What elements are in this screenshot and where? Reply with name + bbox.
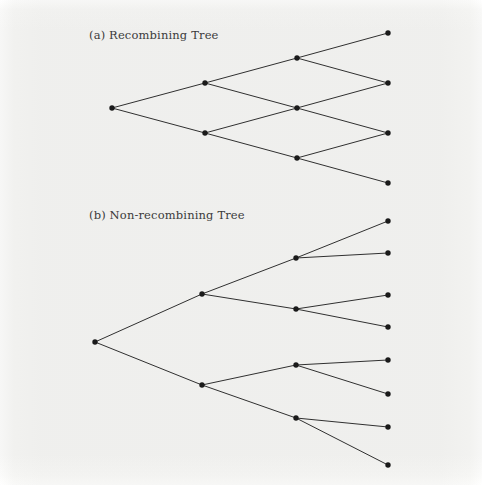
tree-edge	[296, 418, 388, 427]
tree-node	[294, 155, 299, 160]
tree-edge	[296, 221, 388, 258]
tree-node	[199, 382, 204, 387]
tree-edge	[202, 385, 296, 418]
tree-node	[385, 80, 390, 85]
tree-node	[385, 250, 390, 255]
tree-edge	[112, 83, 205, 108]
tree-edge	[202, 294, 296, 309]
tree-node	[92, 339, 97, 344]
tree-node	[293, 255, 298, 260]
tree-edge	[205, 133, 297, 158]
tree-edge	[205, 58, 297, 83]
panel-label-non-recombining: (b) Non-recombining Tree	[89, 208, 245, 222]
tree-node	[294, 105, 299, 110]
tree-edge	[95, 294, 202, 342]
tree-edge	[205, 83, 297, 108]
tree-edge	[296, 360, 388, 365]
tree-edge	[296, 418, 388, 465]
tree-node	[385, 357, 390, 362]
tree-edges-non-recombining	[95, 221, 388, 465]
tree-edge	[296, 253, 388, 258]
panel-label-recombining: (a) Recombining Tree	[89, 28, 219, 42]
tree-edge	[297, 133, 388, 158]
tree-node	[385, 218, 390, 223]
tree-node	[385, 391, 390, 396]
tree-node	[385, 292, 390, 297]
tree-edge	[296, 365, 388, 394]
tree-node	[202, 130, 207, 135]
tree-node	[385, 324, 390, 329]
tree-node	[385, 130, 390, 135]
tree-edge	[205, 108, 297, 133]
tree-node	[293, 362, 298, 367]
tree-edge	[297, 33, 388, 58]
tree-nodes-recombining	[109, 30, 390, 185]
tree-node	[385, 424, 390, 429]
tree-node	[293, 306, 298, 311]
tree-node	[199, 291, 204, 296]
tree-edge	[112, 108, 205, 133]
tree-edge	[297, 83, 388, 108]
nodes-layer	[92, 30, 390, 467]
tree-edges-recombining	[112, 33, 388, 183]
tree-edge	[297, 58, 388, 83]
tree-node	[293, 415, 298, 420]
tree-edge	[202, 365, 296, 385]
figure-page: (a) Recombining Tree (b) Non-recombining…	[0, 0, 482, 485]
tree-node	[385, 30, 390, 35]
tree-edge	[297, 158, 388, 183]
tree-edge	[95, 342, 202, 385]
tree-edge	[296, 295, 388, 309]
tree-edge	[297, 108, 388, 133]
tree-node	[385, 462, 390, 467]
tree-edge	[296, 309, 388, 327]
tree-node	[109, 105, 114, 110]
edges-layer	[95, 33, 388, 465]
tree-diagram-canvas	[0, 0, 482, 485]
tree-node	[294, 55, 299, 60]
tree-node	[385, 180, 390, 185]
tree-node	[202, 80, 207, 85]
tree-edge	[202, 258, 296, 294]
